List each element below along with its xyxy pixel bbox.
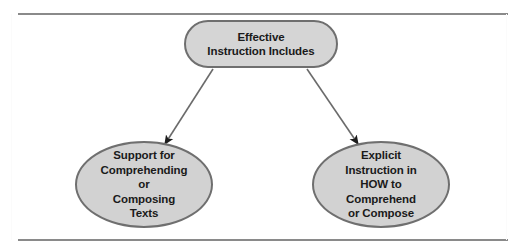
arrow-root-to-explicit (307, 69, 358, 144)
root-node-label: Effective Instruction Includes (207, 30, 314, 59)
arrow-root-to-support (165, 69, 213, 144)
branch-node-support[interactable]: Support for Comprehending or Composing T… (75, 141, 213, 228)
root-node[interactable]: Effective Instruction Includes (184, 20, 338, 68)
branch-node-explicit-label: Explicit Instruction in HOW to Comprehen… (345, 148, 416, 221)
branch-node-explicit[interactable]: Explicit Instruction in HOW to Comprehen… (312, 141, 450, 228)
diagram-canvas: Effective Instruction Includes Support f… (0, 0, 522, 252)
branch-node-support-label: Support for Comprehending or Composing T… (101, 148, 188, 221)
